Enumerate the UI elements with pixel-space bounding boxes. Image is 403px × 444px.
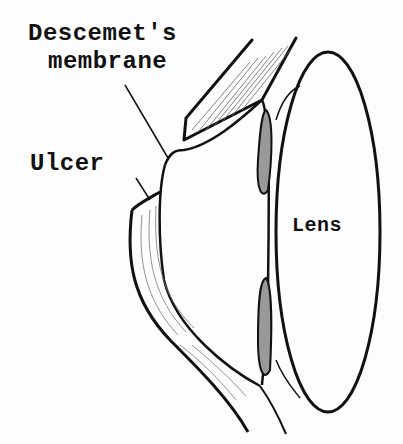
iris-pigment — [258, 86, 300, 398]
ulcer-leader-line — [136, 178, 150, 200]
label-descemets: Descemet's — [28, 22, 177, 46]
descemet-membrane — [160, 100, 269, 386]
diagram-canvas: Descemet's membrane Ulcer Lens — [0, 0, 403, 444]
label-ulcer: Ulcer — [30, 152, 105, 176]
label-lens: Lens — [292, 216, 342, 236]
descemet-leader-line — [125, 85, 168, 158]
label-membrane: membrane — [48, 50, 167, 74]
upper-cornea — [184, 38, 296, 140]
